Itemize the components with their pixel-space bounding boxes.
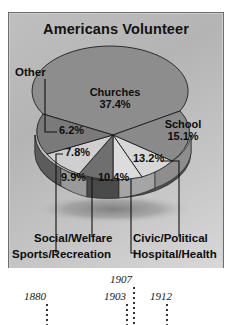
slice-pct-sports: 7.8% bbox=[65, 147, 90, 159]
timeline-year-1880: 1880 bbox=[24, 290, 46, 302]
timeline-dots-1907 bbox=[133, 287, 135, 325]
timeline-dots-1903 bbox=[126, 304, 128, 325]
slice-name-sports: Sports/Recreation bbox=[12, 248, 111, 260]
pie-chart: Churches 37.4% School 15.1% 13.2% 10.4% … bbox=[9, 13, 223, 269]
timeline: 1880 1903 1907 1912 bbox=[0, 268, 230, 325]
timeline-year-1903: 1903 bbox=[104, 290, 126, 302]
slice-name-other: Other bbox=[15, 66, 46, 78]
timeline-year-1907: 1907 bbox=[110, 273, 132, 285]
timeline-dots-1880 bbox=[46, 304, 48, 325]
slice-name-hospital: Hospital/Health bbox=[133, 248, 217, 260]
slice-pct-school: 15.1% bbox=[167, 130, 198, 142]
slice-label-school: School 15.1% bbox=[155, 119, 211, 143]
chart-panel: Americans Volunteer bbox=[8, 12, 224, 270]
slice-name-churches: Churches bbox=[90, 86, 141, 98]
slice-name-school: School bbox=[165, 118, 202, 130]
slice-pct-hospital: 10.4% bbox=[98, 172, 129, 184]
slice-name-civic: Civic/Political bbox=[133, 232, 208, 244]
slice-label-churches: Churches 37.4% bbox=[79, 87, 151, 111]
slice-pct-civic: 13.2% bbox=[133, 153, 164, 165]
slice-pct-social: 9.9% bbox=[61, 172, 86, 184]
timeline-year-1912: 1912 bbox=[150, 290, 172, 302]
timeline-dots-1912 bbox=[166, 304, 168, 325]
slice-name-social: Social/Welfare bbox=[34, 232, 112, 244]
slice-pct-other: 6.2% bbox=[59, 125, 84, 137]
pie-shadow bbox=[35, 195, 191, 223]
infographic-root: Americans Volunteer bbox=[0, 0, 230, 325]
slice-pct-churches: 37.4% bbox=[99, 98, 130, 110]
